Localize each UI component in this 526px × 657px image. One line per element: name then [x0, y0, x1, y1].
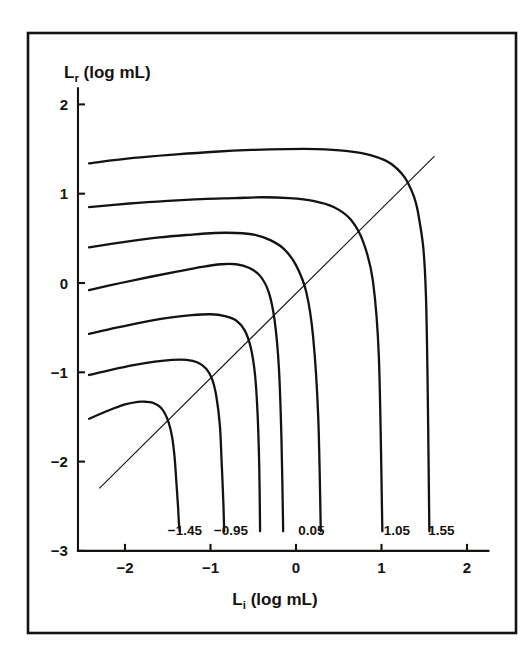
y-tick-label: −3 [51, 542, 68, 559]
curve-label-1-55: 1.55 [428, 523, 455, 538]
curve-label-neg-1-45: −1.45 [168, 523, 203, 538]
x-axis-label-base: L [232, 590, 242, 609]
x-axis-label: Li (log mL) [232, 590, 317, 611]
y-tick-label: −1 [51, 364, 68, 381]
curve-label-neg-0-95: −0.95 [214, 523, 249, 538]
x-tick-label: 0 [292, 559, 300, 576]
scientific-plot: 210−1−2−3 −2−1012 −1.45−0.950.051.051.55… [0, 0, 526, 657]
x-tick-label: 1 [377, 559, 385, 576]
curve-label-0-05: 0.05 [298, 523, 325, 538]
y-axis-label-base: L [64, 63, 74, 82]
y-axis-label-units: (log mL) [79, 63, 151, 82]
x-tick-label: −1 [202, 559, 219, 576]
y-tick-label: 1 [60, 185, 68, 202]
y-tick-label: −2 [51, 453, 68, 470]
y-tick-label: 0 [60, 275, 68, 292]
curve-label-1-05: 1.05 [384, 523, 411, 538]
x-tick-label: −2 [116, 559, 133, 576]
x-tick-label: 2 [463, 559, 471, 576]
y-tick-label: 2 [60, 96, 68, 113]
figure-container: 210−1−2−3 −2−1012 −1.45−0.950.051.051.55… [0, 0, 526, 657]
x-axis-label-units: (log mL) [246, 590, 318, 609]
